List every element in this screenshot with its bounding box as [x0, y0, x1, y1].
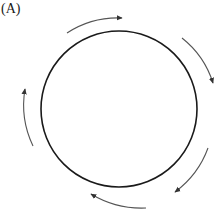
left-arrow-icon: [24, 89, 33, 146]
bottom-arrow-icon: [91, 194, 146, 208]
lower-right-arrow-icon: [175, 148, 208, 192]
upper-right-arrow-icon: [182, 38, 213, 83]
cycle-diagram: [0, 0, 218, 210]
main-circle: [41, 31, 197, 187]
